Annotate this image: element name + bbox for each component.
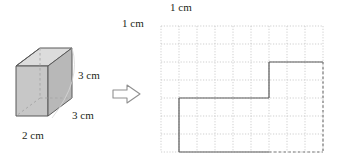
prism-svg — [0, 38, 110, 138]
arrow-right-svg — [111, 82, 143, 106]
prism-front-face — [16, 66, 48, 116]
grid-cell-left-label: 1 cm — [122, 18, 144, 29]
prism-height-label: 3 cm — [78, 70, 100, 81]
prism-depth-label: 3 cm — [72, 110, 94, 121]
grid-svg — [159, 24, 335, 164]
arrow-right-icon — [111, 82, 143, 106]
grid-cell-tick-marks — [159, 24, 179, 44]
grid-cell-top-label: 1 cm — [170, 2, 192, 13]
grid-lines — [161, 26, 323, 152]
grid-panel — [159, 24, 335, 164]
diagram-canvas: 3 cm 3 cm 2 cm 1 cm 1 cm — [0, 0, 338, 167]
rectangular-prism-figure — [0, 38, 110, 138]
prism-width-label: 2 cm — [22, 130, 44, 141]
